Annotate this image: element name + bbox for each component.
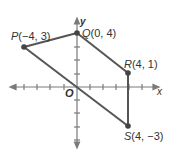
y-axis-label: y <box>79 16 86 27</box>
label-s: S(4, −3) <box>124 130 163 142</box>
label-q: Q(0, 4) <box>82 27 116 39</box>
coordinate-plane: P(−4, 3) Q(0, 4) R(4, 1) S(4, −3) O x y <box>0 0 174 161</box>
y-axis <box>74 18 80 148</box>
label-r: R(4, 1) <box>124 58 158 70</box>
segment-qr <box>77 33 128 73</box>
point-s <box>125 123 131 129</box>
point-r <box>125 70 131 76</box>
origin-label: O <box>65 87 74 99</box>
x-axis <box>10 84 159 90</box>
label-p: P(−4, 3) <box>11 30 50 42</box>
point-q <box>74 30 80 36</box>
x-axis-label: x <box>156 86 163 97</box>
point-p <box>21 44 27 50</box>
